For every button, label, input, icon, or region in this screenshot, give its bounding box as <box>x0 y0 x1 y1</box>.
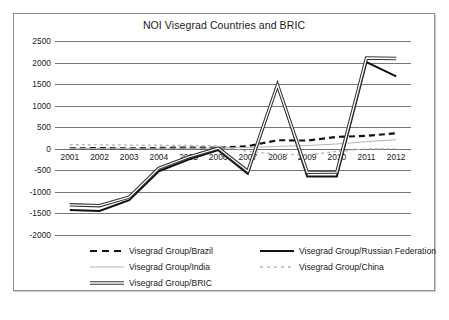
y-axis-tick-label: 1000 <box>32 101 51 111</box>
legend-item[interactable]: Visegrad Group/India <box>90 262 210 272</box>
y-axis-tick-label: -500 <box>34 165 51 175</box>
triple-line-swatch <box>90 278 124 288</box>
solid-line-swatch <box>260 246 294 256</box>
legend-item[interactable]: Visegrad Group/China <box>260 262 384 272</box>
legend-label: Visegrad Group/India <box>129 262 210 272</box>
dashed-line-swatch <box>90 246 124 256</box>
legend-label: Visegrad Group/BRIC <box>129 278 212 288</box>
dotted-gray-line-swatch <box>260 262 294 272</box>
y-axis-tick-label: 500 <box>37 122 51 132</box>
y-axis-tick-label: 1500 <box>32 79 51 89</box>
legend-item[interactable]: Visegrad Group/BRIC <box>90 278 212 288</box>
series-lines <box>55 41 411 235</box>
y-axis-tick-label: 0 <box>46 144 51 154</box>
chart-container: NOI Visegrad Countries and BRIC 25002000… <box>13 13 435 291</box>
y-axis-tick-label: -2000 <box>30 230 51 240</box>
legend-label: Visegrad Group/China <box>299 262 384 272</box>
plot-area: 25002000150010005000-500-1000-1500-2000 … <box>55 41 411 235</box>
legend-item[interactable]: Visegrad Group/Brazil <box>90 246 213 256</box>
chart-legend: Visegrad Group/BrazilVisegrad Group/Russ… <box>28 246 422 288</box>
chart-title: NOI Visegrad Countries and BRIC <box>14 19 434 31</box>
gridline <box>55 235 411 236</box>
legend-label: Visegrad Group/Russian Federation <box>299 246 436 256</box>
series-line <box>70 140 396 149</box>
y-axis-tick-label: -1000 <box>30 187 51 197</box>
legend-item[interactable]: Visegrad Group/Russian Federation <box>260 246 436 256</box>
thin-gray-line-swatch <box>90 262 124 272</box>
y-axis-tick-label: 2000 <box>32 58 51 68</box>
y-axis-tick-label: -1500 <box>30 208 51 218</box>
series-line-inner <box>70 58 396 206</box>
legend-label: Visegrad Group/Brazil <box>129 246 213 256</box>
y-axis-tick-label: 2500 <box>32 36 51 46</box>
